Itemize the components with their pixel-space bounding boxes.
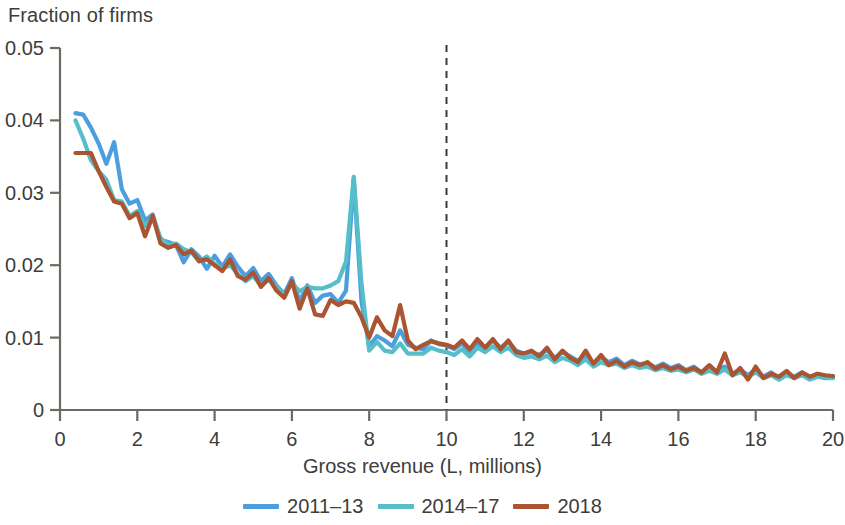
x-tick-label: 8 <box>364 428 375 450</box>
x-axis-ticks: 02468101214161820 <box>54 410 844 450</box>
y-axis-ticks: 00.010.020.030.040.05 <box>5 37 60 421</box>
y-tick-label: 0.03 <box>5 182 44 204</box>
x-tick-label: 14 <box>590 428 612 450</box>
y-axis-title: Fraction of firms <box>8 4 153 27</box>
x-tick-label: 16 <box>667 428 689 450</box>
x-tick-label: 20 <box>822 428 844 450</box>
y-tick-label: 0.04 <box>5 109 44 131</box>
chart-series-lines <box>75 113 833 379</box>
x-tick-label: 10 <box>435 428 457 450</box>
x-tick-label: 0 <box>54 428 65 450</box>
y-tick-label: 0.01 <box>5 327 44 349</box>
y-tick-label: 0.05 <box>5 37 44 59</box>
series-line <box>75 113 833 378</box>
x-tick-label: 12 <box>513 428 535 450</box>
legend-entry: 2018 <box>513 496 602 516</box>
legend-color-swatch <box>378 504 414 509</box>
chart-legend: 2011–132014–172018 <box>0 496 845 516</box>
x-tick-label: 2 <box>132 428 143 450</box>
legend-color-swatch <box>513 504 549 509</box>
x-tick-label: 18 <box>745 428 767 450</box>
series-line <box>75 153 833 380</box>
x-tick-label: 6 <box>286 428 297 450</box>
legend-label: 2018 <box>557 496 602 516</box>
chart-container: Fraction of firms 00.010.020.030.040.05 … <box>0 0 845 525</box>
chart-plot-area: 00.010.020.030.040.05 02468101214161820 <box>0 0 845 450</box>
legend-color-swatch <box>243 504 279 509</box>
legend-label: 2014–17 <box>422 496 500 516</box>
x-axis-title: Gross revenue (L, millions) <box>0 455 845 478</box>
x-tick-label: 4 <box>209 428 220 450</box>
y-tick-label: 0.02 <box>5 254 44 276</box>
legend-entry: 2014–17 <box>378 496 500 516</box>
legend-label: 2011–13 <box>287 496 363 516</box>
y-tick-label: 0 <box>33 399 44 421</box>
legend-entry: 2011–13 <box>243 496 363 516</box>
